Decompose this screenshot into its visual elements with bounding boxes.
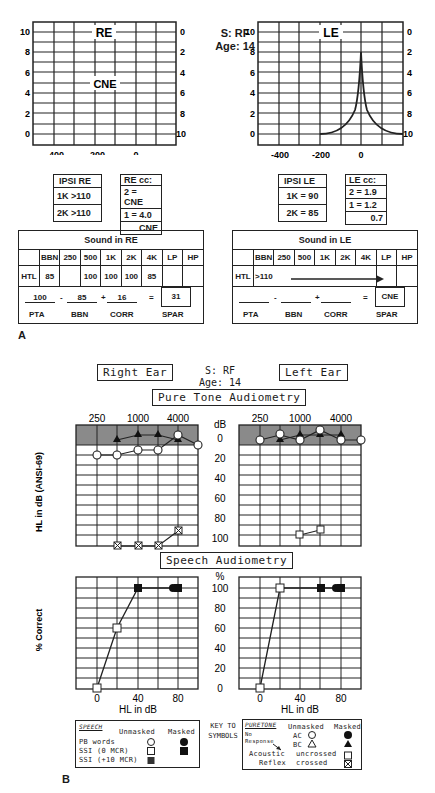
svg-text:6: 6: [25, 68, 30, 78]
ipsi-le-row: 2K = 85: [279, 205, 326, 222]
svg-text:0: 0: [94, 693, 100, 704]
no-response-arrow-icon: [271, 273, 391, 285]
svg-text:2: 2: [250, 109, 255, 119]
le-cc-row: 1 = 1.2: [346, 199, 386, 212]
bbn-value: 85: [67, 293, 97, 303]
pt-right-grid: [76, 425, 202, 549]
ipsi-le-row: 1K = 90: [279, 188, 326, 205]
ssi-unmasked-square-icon: [256, 684, 264, 692]
svg-text:0: 0: [25, 129, 30, 139]
svg-text:dB: dB: [214, 419, 227, 430]
pure-tone-title: Pure Tone Audiometry: [152, 389, 306, 406]
svg-text:40: 40: [294, 693, 306, 704]
panel-label-a: A: [18, 329, 26, 341]
svg-text:6: 6: [250, 68, 255, 78]
right-ear-label: Right Ear: [97, 364, 173, 381]
svg-text:250: 250: [89, 413, 106, 424]
cne-annotation: CNE: [93, 78, 116, 90]
spar-value: CNE: [375, 287, 405, 307]
svg-text:2: 2: [25, 109, 30, 119]
tympanogram-re-chart: RE CNE 10 8 6 4 2 0 0 2 4 6 8 10 -400 -2…: [0, 0, 200, 155]
svg-text:8: 8: [250, 47, 255, 57]
pta-value: [239, 293, 269, 303]
svg-text:2: 2: [180, 47, 185, 57]
svg-text:-200: -200: [312, 150, 330, 160]
sound-in-le-table: Sound in LE BBN2505001K2K4KLPHP HTL>110 …: [232, 230, 418, 324]
panel-label-b: B: [62, 773, 70, 785]
svg-text:0: 0: [217, 433, 223, 444]
svg-text:0: 0: [407, 27, 412, 37]
svg-text:4: 4: [250, 88, 255, 98]
svg-text:6: 6: [180, 88, 185, 98]
re-cc-row: 1 = 4.0: [121, 209, 161, 222]
svg-text:100: 100: [212, 533, 229, 544]
ipsi-le-title: IPSI LE: [279, 175, 326, 187]
svg-text:%: %: [216, 571, 225, 582]
svg-text:4: 4: [25, 88, 30, 98]
reflex-crossed-icon: [345, 761, 352, 768]
svg-text:0: 0: [217, 683, 223, 694]
ssi-unmasked-square-icon: [113, 624, 121, 632]
svg-text:-400: -400: [271, 150, 289, 160]
ear-label-le: LE: [323, 26, 338, 40]
speech-audiometry-title: Speech Audiometry: [160, 552, 293, 569]
pb-unmasked-circle-icon: [148, 739, 155, 746]
pta-value: 100: [25, 293, 55, 303]
svg-text:0: 0: [257, 693, 263, 704]
svg-text:8: 8: [180, 109, 185, 119]
bc-unmasked-triangle-icon: [308, 740, 316, 747]
svg-text:80: 80: [172, 693, 184, 704]
ipsi-re-title: IPSI RE: [54, 175, 101, 187]
pt-left-grid: [239, 425, 365, 546]
svg-text:60: 60: [214, 493, 226, 504]
re-cc-box: RE cc: 2 = CNE 1 = 4.0 CNE: [120, 174, 162, 235]
ssi-unmasked-square-icon: [93, 684, 101, 692]
sound-le-title: Sound in LE: [233, 231, 417, 250]
svg-text:4: 4: [407, 68, 412, 78]
svg-text:6: 6: [407, 88, 412, 98]
svg-text:HL in dB: HL in dB: [281, 704, 319, 715]
ac-masked-circle-icon: [344, 731, 352, 739]
key-to-symbols: KEY TO SYMBOLS: [205, 721, 241, 741]
re-cc-row: 2 = CNE: [121, 186, 161, 209]
subject-id: S: RF: [190, 365, 250, 377]
ipsi-re-box: IPSI RE 1K >110 2K >110: [53, 174, 102, 222]
le-cc-row: 0.7: [346, 212, 386, 225]
svg-text:80: 80: [214, 603, 226, 614]
svg-text:-400: -400: [46, 150, 64, 155]
ssi-masked-square-icon: [174, 584, 182, 592]
pt-ylabel: HL in dB (ANSI-69): [34, 452, 44, 532]
ssi-masked-square-icon: [134, 584, 142, 592]
ssi-masked-square-icon: [180, 747, 188, 755]
svg-text:0: 0: [358, 150, 363, 160]
svg-text:20: 20: [214, 663, 226, 674]
ear-label-re: RE: [96, 26, 113, 40]
ssi-masked-square-icon: [317, 584, 325, 592]
ipsi-le-box: IPSI LE 1K = 90 2K = 85: [278, 174, 327, 222]
tympanogram-le: LE 10 8 6 4 2 0 0 2 4 6 8 10 -400 -200 0: [225, 0, 435, 160]
ac-unmasked-circle-icon: [309, 732, 316, 739]
speech-legend: SPEECH Unmasked Masked PB words SSI (0 M…: [75, 720, 200, 768]
ipsi-re-row: 2K >110: [54, 205, 101, 222]
sp-ylabel: % Correct: [34, 609, 44, 652]
svg-text:0: 0: [180, 27, 185, 37]
sound-in-re-table: Sound in RE BBN2505001K2K4KLPHP HTL85100…: [18, 230, 204, 324]
svg-text:8: 8: [407, 109, 412, 119]
svg-text:1000: 1000: [289, 413, 312, 424]
ssi-10-unmasked-square-icon: [148, 757, 155, 764]
bc-masked-triangle-icon: [344, 740, 352, 747]
ssi-masked-square-icon: [337, 584, 345, 592]
spar-formula-re: 100 - 85 + 16 = 31 PTA BBN CORR SPAR: [19, 287, 203, 323]
svg-text:40: 40: [132, 693, 144, 704]
tympanogram-le-chart: LE 10 8 6 4 2 0 0 2 4 6 8 10 -400 -200 0: [225, 0, 435, 160]
svg-text:1000: 1000: [127, 413, 150, 424]
sound-re-title: Sound in RE: [19, 231, 203, 250]
puretone-legend: PURETONE Unmasked Masked No Response AC …: [242, 719, 362, 770]
svg-text:HL in dB: HL in dB: [119, 704, 157, 715]
ssi-unmasked-square-icon: [276, 584, 284, 592]
svg-text:80: 80: [335, 693, 347, 704]
le-cc-box: LE cc: 2 = 1.9 1 = 1.2 0.7: [345, 174, 387, 225]
svg-text:-200: -200: [87, 150, 105, 155]
svg-text:10: 10: [403, 129, 413, 139]
ssi-0-unmasked-square-icon: [148, 748, 155, 755]
